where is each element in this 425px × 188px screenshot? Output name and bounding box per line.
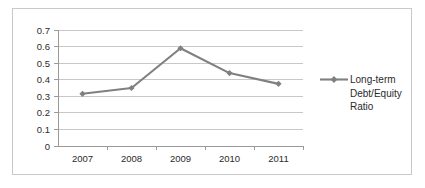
legend-diamond-marker-icon <box>331 76 338 83</box>
x-tick-label: 2011 <box>268 153 288 164</box>
y-tick-label: 0.6 <box>37 41 50 52</box>
x-tick-label: 2008 <box>121 153 142 164</box>
y-tick-marks <box>54 30 58 146</box>
chart-legend: Long-term Debt/Equity Ratio <box>320 74 402 112</box>
data-point-marker <box>275 81 281 87</box>
legend-label-line-1: Long-term <box>350 74 396 85</box>
chart-frame: 0.7 0.6 0.5 0.4 0.3 0.2 0.1 0 2007 2008 <box>12 8 412 175</box>
series-long-term-debt-equity-ratio <box>79 45 281 97</box>
y-axis-tick-labels: 0.7 0.6 0.5 0.4 0.3 0.2 0.1 0 <box>37 25 50 152</box>
series-line <box>83 48 279 94</box>
x-axis-tick-labels: 2007 2008 2009 2010 2011 <box>72 153 289 164</box>
legend-label-line-3: Ratio <box>350 101 374 112</box>
gridlines <box>58 30 303 129</box>
x-tick-marks <box>107 146 303 150</box>
y-tick-label: 0.4 <box>37 74 50 85</box>
y-tick-label: 0.3 <box>37 91 50 102</box>
chart-plot-area: 0.7 0.6 0.5 0.4 0.3 0.2 0.1 0 2007 2008 <box>13 9 413 176</box>
y-tick-label: 0.7 <box>37 25 50 36</box>
y-tick-label: 0.5 <box>37 58 50 69</box>
x-tick-label: 2009 <box>170 153 191 164</box>
y-tick-label: 0.1 <box>37 124 50 135</box>
x-tick-label: 2007 <box>72 153 93 164</box>
legend-label-line-2: Debt/Equity <box>350 88 402 99</box>
y-tick-label: 0 <box>45 141 50 152</box>
series-markers <box>79 45 281 97</box>
x-tick-label: 2010 <box>219 153 240 164</box>
y-tick-label: 0.2 <box>37 107 50 118</box>
line-chart: 0.7 0.6 0.5 0.4 0.3 0.2 0.1 0 2007 2008 <box>13 9 413 176</box>
